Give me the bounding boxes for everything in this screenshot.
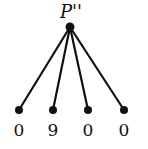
leaf-node-0 xyxy=(15,106,23,114)
root-label: P'' xyxy=(60,3,82,20)
leaf-label-1: 9 xyxy=(48,122,59,139)
leaf-node-2 xyxy=(84,106,92,114)
edges xyxy=(19,27,124,110)
leaf-label-0: 0 xyxy=(14,122,25,139)
leaf-node-1 xyxy=(49,106,57,114)
leaf-label-2: 0 xyxy=(83,122,94,139)
leaf-label-3: 0 xyxy=(119,122,130,139)
root-node xyxy=(66,23,75,32)
leaf-node-3 xyxy=(120,106,128,114)
